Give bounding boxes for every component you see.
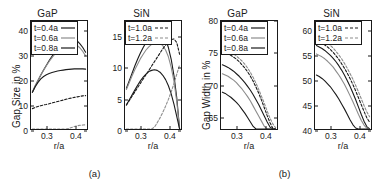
- series-line: [32, 69, 85, 92]
- y-tick-mark: [31, 106, 34, 107]
- y-tick-label: 60: [303, 27, 312, 36]
- legend-item: t=1.2a: [318, 33, 359, 43]
- series-line: [126, 70, 179, 129]
- y-tick-label: 80: [209, 17, 218, 26]
- x-axis-label: r/a: [314, 141, 372, 151]
- x-tick-mark: [330, 126, 331, 129]
- panel-b-gap: GaP 657075800.30.4 t=0.4at=0.6at=0.8a r/…: [190, 0, 285, 165]
- x-tick-label: 0.3: [325, 132, 337, 141]
- y-tick-label: 10: [113, 64, 122, 73]
- x-tick-label: 0.3: [231, 132, 243, 141]
- y-tick-mark: [125, 99, 128, 100]
- y-tick-mark: [84, 31, 87, 32]
- legend-label: t=0.8a: [224, 44, 248, 53]
- y-tick-label: 50: [303, 77, 312, 86]
- x-tick-label: 0.4: [164, 132, 176, 141]
- y-tick-mark: [274, 53, 277, 54]
- y-tick-mark: [368, 106, 371, 107]
- legend-item: t=0.8a: [34, 43, 75, 53]
- legend-label: t=1.0a: [128, 24, 152, 33]
- panel-title: GaP: [190, 8, 285, 19]
- legend-swatch: [61, 34, 75, 42]
- y-tick-label: 20: [19, 77, 28, 86]
- subfigure-b: Gap Width in % GaP 657075800.30.4 t=0.4a…: [190, 0, 379, 190]
- legend-label: t=1.2a: [318, 34, 342, 43]
- y-tick-mark: [178, 68, 181, 69]
- legend-swatch: [155, 24, 169, 32]
- y-tick-mark: [368, 56, 371, 57]
- x-axis-label: r/a: [30, 141, 88, 151]
- y-tick-mark: [315, 106, 318, 107]
- x-tick-mark: [265, 126, 266, 129]
- y-tick-label: 75: [209, 49, 218, 58]
- x-tick-label: 0.3: [135, 132, 147, 141]
- legend-swatch: [155, 34, 169, 42]
- y-tick-mark: [315, 131, 318, 132]
- subfigure-caption: (a): [0, 168, 189, 179]
- y-tick-label: 30: [19, 52, 28, 61]
- y-tick-mark: [31, 81, 34, 82]
- legend-swatch: [61, 44, 75, 52]
- y-tick-label: 70: [209, 81, 218, 90]
- legend-item: t=0.4a: [224, 23, 265, 33]
- y-tick-mark: [315, 81, 318, 82]
- x-tick-label: 0.4: [70, 132, 82, 141]
- y-tick-mark: [221, 118, 224, 119]
- subfigure-caption: (b): [190, 168, 379, 179]
- series-line: [222, 52, 275, 129]
- y-tick-label: 45: [303, 102, 312, 111]
- y-tick-label: 40: [303, 127, 312, 136]
- y-tick-label: 10: [19, 102, 28, 111]
- y-tick-mark: [178, 99, 181, 100]
- x-axis-label: r/a: [220, 141, 278, 151]
- legend-item: t=1.2a: [128, 33, 169, 43]
- y-tick-mark: [274, 85, 277, 86]
- y-tick-mark: [31, 56, 34, 57]
- series-line: [126, 43, 179, 129]
- panel-title: SiN: [284, 8, 379, 19]
- y-tick-label: 0: [117, 127, 122, 136]
- legend-label: t=0.4a: [34, 24, 58, 33]
- legend-label: t=1.0a: [318, 24, 342, 33]
- panel-b-sin: SiN 40455055600.30.4 t=1.0at=1.2a r/a: [284, 0, 379, 165]
- legend-label: t=0.8a: [34, 44, 58, 53]
- y-tick-mark: [274, 118, 277, 119]
- legend-item: t=0.8a: [224, 43, 265, 53]
- legend-swatch: [251, 34, 265, 42]
- y-tick-mark: [368, 31, 371, 32]
- y-tick-label: 0: [23, 127, 28, 136]
- legend: t=1.0at=1.2a: [125, 21, 172, 45]
- panel-a-sin: SiN 0510150.30.4 t=1.0at=1.2a r/a: [94, 0, 189, 165]
- legend-item: t=1.0a: [318, 23, 359, 33]
- y-tick-label: 65: [209, 114, 218, 123]
- y-tick-mark: [178, 36, 181, 37]
- legend-label: t=1.2a: [128, 34, 152, 43]
- y-tick-label: 40: [19, 27, 28, 36]
- x-tick-mark: [169, 126, 170, 129]
- x-tick-label: 0.3: [41, 132, 53, 141]
- y-tick-mark: [178, 131, 181, 132]
- series-line: [126, 31, 179, 129]
- y-tick-mark: [84, 56, 87, 57]
- legend: t=1.0at=1.2a: [315, 21, 362, 45]
- legend-item: t=0.6a: [224, 33, 265, 43]
- y-tick-mark: [368, 131, 371, 132]
- legend-label: t=0.4a: [224, 24, 248, 33]
- series-line: [32, 96, 85, 109]
- y-tick-mark: [368, 81, 371, 82]
- y-tick-mark: [315, 56, 318, 57]
- y-tick-label: 5: [117, 95, 122, 104]
- legend-swatch: [251, 44, 265, 52]
- x-tick-mark: [46, 126, 47, 129]
- y-tick-mark: [84, 131, 87, 132]
- x-tick-mark: [359, 126, 360, 129]
- series-line: [316, 54, 369, 129]
- x-tick-mark: [236, 126, 237, 129]
- legend-item: t=0.6a: [34, 33, 75, 43]
- x-tick-mark: [140, 126, 141, 129]
- x-tick-label: 0.4: [260, 132, 272, 141]
- x-tick-label: 0.4: [354, 132, 366, 141]
- figure-root: Gap Size in % GaP 0102030400.30.4 t=0.4a…: [0, 0, 379, 190]
- legend-swatch: [345, 34, 359, 42]
- legend-swatch: [251, 24, 265, 32]
